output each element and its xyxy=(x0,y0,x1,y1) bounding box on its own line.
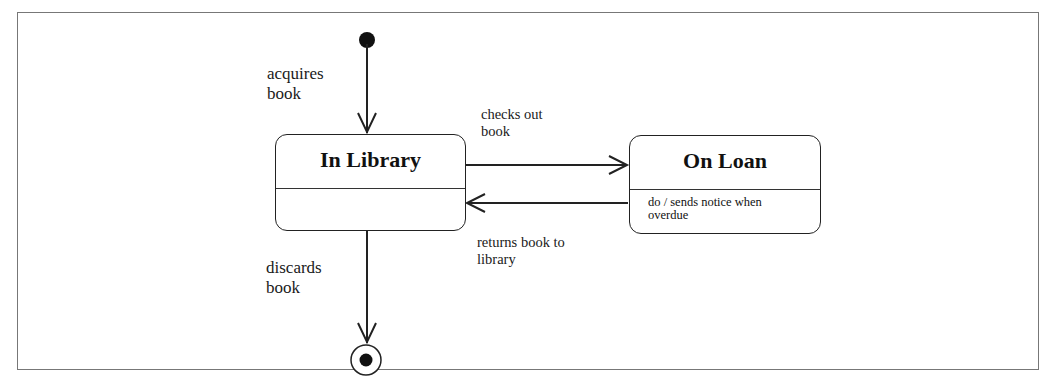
label-returns-book: returns book to library xyxy=(477,234,565,267)
label-discards-book: discards book xyxy=(266,258,322,297)
diagram-canvas xyxy=(0,0,1053,382)
final-state-icon xyxy=(351,345,381,375)
state-on-loan: On Loan do / sends notice when overdue xyxy=(629,135,821,234)
transition-returns-arrow xyxy=(467,194,628,212)
state-name: On Loan xyxy=(630,148,820,174)
state-divider xyxy=(630,189,820,190)
state-divider xyxy=(276,188,465,189)
label-acquires-book: acquires book xyxy=(267,64,324,103)
state-in-library: In Library xyxy=(275,134,466,231)
state-name: In Library xyxy=(276,147,465,173)
transition-acquires-arrow xyxy=(358,44,376,133)
transition-discards-arrow xyxy=(358,231,376,343)
label-checks-out-book: checks out book xyxy=(481,106,543,139)
state-activity: do / sends notice when overdue xyxy=(648,196,814,222)
transition-checks-out-arrow xyxy=(466,156,627,174)
